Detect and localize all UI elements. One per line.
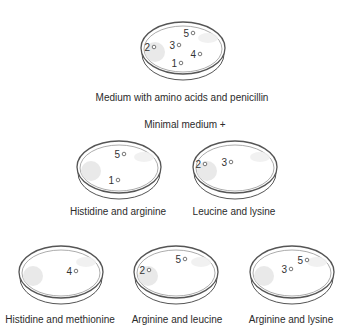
colony-dot bbox=[179, 61, 183, 65]
replica-plate-arginine-leucine: 25 bbox=[131, 240, 221, 310]
colony-dot bbox=[198, 52, 202, 56]
colony-dot bbox=[116, 178, 120, 182]
colony-dot bbox=[203, 162, 207, 166]
colony-dot bbox=[74, 269, 78, 273]
dish-shading bbox=[254, 266, 274, 286]
colony-number-label: 5 bbox=[297, 255, 303, 266]
colony-number-label: 5 bbox=[175, 254, 181, 265]
dish-highlight bbox=[307, 257, 327, 267]
dish-shading bbox=[23, 266, 43, 286]
colony-number-label: 2 bbox=[195, 159, 201, 170]
replica-plate-leucine-lysine: 23 bbox=[190, 135, 280, 205]
dish-highlight bbox=[191, 257, 211, 267]
colony-number-label: 2 bbox=[144, 42, 150, 53]
colony-dot bbox=[122, 152, 126, 156]
master-plate: 12345 bbox=[138, 16, 228, 86]
colony-dot bbox=[305, 258, 309, 262]
colony-number-label: 2 bbox=[139, 265, 145, 276]
colony-dot bbox=[229, 160, 233, 164]
colony-dot bbox=[177, 43, 181, 47]
colony-number-label: 4 bbox=[66, 266, 72, 277]
replica-plate-label: Histidine and arginine bbox=[70, 206, 166, 217]
dish-highlight bbox=[198, 33, 218, 43]
replica-plate-label: Leucine and lysine bbox=[193, 206, 276, 217]
replica-plate-label: Arginine and lysine bbox=[249, 314, 334, 325]
colony-number-label: 1 bbox=[108, 175, 114, 186]
colony-dot bbox=[147, 268, 151, 272]
dish-highlight bbox=[76, 257, 96, 267]
replica-plate-label: Histidine and methionine bbox=[5, 314, 115, 325]
replica-plate-arginine-lysine: 35 bbox=[247, 240, 337, 310]
dish-shading bbox=[81, 161, 101, 181]
replica-plate-histidine-methionine: 4 bbox=[16, 240, 106, 310]
colony-number-label: 3 bbox=[169, 40, 175, 51]
section-header: Minimal medium + bbox=[144, 119, 225, 130]
colony-dot bbox=[191, 31, 195, 35]
dish-highlight bbox=[250, 152, 270, 162]
colony-dot bbox=[183, 257, 187, 261]
colony-number-label: 5 bbox=[183, 28, 189, 39]
colony-number-label: 4 bbox=[190, 49, 196, 60]
replica-plate-label: Arginine and leucine bbox=[132, 314, 223, 325]
master-plate-label: Medium with amino acids and penicillin bbox=[96, 92, 269, 103]
dish-highlight bbox=[134, 152, 154, 162]
colony-number-label: 3 bbox=[281, 264, 287, 275]
colony-number-label: 5 bbox=[114, 149, 120, 160]
colony-dot bbox=[152, 45, 156, 49]
colony-dot bbox=[289, 267, 293, 271]
colony-number-label: 1 bbox=[171, 58, 177, 69]
replica-plate-histidine-arginine: 51 bbox=[74, 135, 164, 205]
colony-number-label: 3 bbox=[221, 157, 227, 168]
